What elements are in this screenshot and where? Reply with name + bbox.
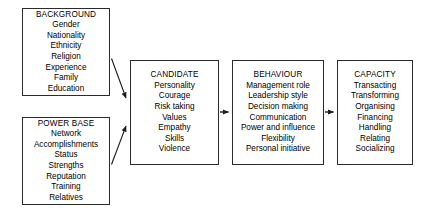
box-candidate-items: Personality Courage Risk taking Values E… — [154, 81, 195, 155]
box-behaviour-item: Communication — [250, 113, 307, 124]
box-power-base: POWER BASE Network Accomplishments Statu… — [22, 117, 110, 205]
box-background-item: Gender — [52, 20, 79, 31]
box-capacity-item: Socializing — [355, 144, 394, 155]
connector-powerbase-to-candidate — [112, 126, 127, 165]
box-capacity-item: Transforming — [351, 91, 399, 102]
box-candidate-item: Values — [162, 113, 186, 124]
box-background-items: Gender Nationality Ethnicity Religion Ex… — [46, 20, 87, 94]
box-behaviour-item: Flexibility — [261, 134, 295, 145]
box-power-base-item: Strengths — [48, 161, 83, 172]
box-candidate-item: Risk taking — [154, 102, 194, 113]
flow-diagram: BACKGROUND Gender Nationality Ethnicity … — [0, 0, 430, 222]
box-capacity-items: Transacting Transforming Organising Fina… — [351, 81, 399, 155]
box-candidate: CANDIDATE Personality Courage Risk takin… — [130, 60, 219, 165]
box-background-item: Nationality — [47, 31, 85, 42]
box-background-item: Experience — [46, 63, 87, 74]
box-power-base-items: Network Accomplishments Status Strengths… — [34, 129, 98, 203]
box-power-base-item: Reputation — [46, 172, 86, 183]
box-behaviour: BEHAVIOUR Management role Leadership sty… — [232, 60, 324, 165]
box-capacity-item: Handling — [359, 123, 391, 134]
box-background: BACKGROUND Gender Nationality Ethnicity … — [22, 8, 110, 96]
box-power-base-item: Network — [51, 129, 81, 140]
box-candidate-item: Skills — [165, 134, 184, 145]
box-background-item: Education — [48, 84, 84, 95]
box-candidate-item: Courage — [159, 91, 190, 102]
box-background-title: BACKGROUND — [36, 10, 96, 21]
box-candidate-item: Empathy — [158, 123, 190, 134]
box-power-base-title: POWER BASE — [38, 119, 95, 130]
box-power-base-item: Relatives — [49, 193, 83, 204]
box-capacity-item: Transacting — [354, 81, 396, 92]
box-candidate-title: CANDIDATE — [150, 70, 198, 81]
box-background-item: Ethnicity — [51, 41, 82, 52]
connector-background-to-candidate — [112, 59, 127, 99]
box-capacity-item: Relating — [360, 134, 390, 145]
box-behaviour-items: Management role Leadership style Decisio… — [241, 81, 315, 155]
box-behaviour-item: Decision making — [248, 102, 308, 113]
box-capacity-item: Organising — [355, 102, 395, 113]
box-behaviour-item: Personal initiative — [246, 144, 310, 155]
box-candidate-item: Personality — [154, 81, 195, 92]
box-capacity-title: CAPACITY — [354, 70, 396, 81]
box-background-item: Religion — [51, 52, 81, 63]
box-behaviour-item: Power and influence — [241, 123, 315, 134]
box-candidate-item: Violence — [159, 144, 190, 155]
box-background-item: Family — [54, 73, 78, 84]
box-power-base-item: Status — [54, 150, 77, 161]
box-power-base-item: Accomplishments — [34, 140, 98, 151]
box-capacity-item: Financing — [357, 113, 393, 124]
box-behaviour-title: BEHAVIOUR — [254, 70, 303, 81]
box-capacity: CAPACITY Transacting Transforming Organi… — [337, 60, 413, 165]
box-behaviour-item: Leadership style — [248, 91, 308, 102]
box-behaviour-item: Management role — [246, 81, 310, 92]
box-power-base-item: Training — [51, 182, 80, 193]
